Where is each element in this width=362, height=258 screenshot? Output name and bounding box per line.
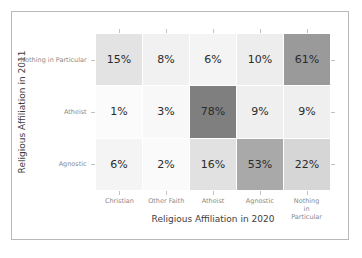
y-axis-tick: [331, 164, 335, 165]
y-axis-tick: [331, 60, 335, 61]
x-axis-tick: [307, 191, 308, 195]
heatmap-cell[interactable]: 6%: [96, 139, 142, 190]
x-axis-tick: [119, 29, 120, 33]
heatmap-cell[interactable]: 9%: [237, 86, 283, 137]
y-axis-tick: [91, 112, 95, 113]
cell-value: 61%: [295, 53, 320, 66]
x-axis-title: Religious Affiliation in 2020: [96, 214, 330, 224]
cell-value: 78%: [201, 105, 226, 118]
cell-value: 9%: [251, 105, 269, 118]
x-axis-tick: [119, 191, 120, 195]
heatmap-cell[interactable]: 8%: [143, 34, 189, 85]
cell-value: 53%: [248, 158, 273, 171]
x-axis-tick: [307, 29, 308, 33]
cell-value: 22%: [295, 158, 320, 171]
heatmap-cell[interactable]: 22%: [284, 139, 330, 190]
heatmap-cell[interactable]: 10%: [237, 34, 283, 85]
heatmap-figure: Religious Affiliation in 2011 15% 8% 6% …: [0, 0, 362, 258]
plot-area: 15% 8% 6% 10% 61% 1% 3% 78%: [96, 34, 330, 190]
y-axis-tick: [331, 112, 335, 113]
x-axis-tick-label: Agnostic: [246, 197, 274, 205]
x-axis-tick-label: Atheist: [202, 197, 225, 205]
x-axis-tick: [260, 191, 261, 195]
y-axis-tick-label: Agnostic: [59, 160, 87, 168]
cell-value: 3%: [157, 105, 175, 118]
cell-value: 1%: [110, 105, 128, 118]
x-axis-tick: [213, 29, 214, 33]
cell-value: 9%: [298, 105, 316, 118]
y-axis-tick: [91, 60, 95, 61]
x-axis-tick: [213, 191, 214, 195]
cell-value: 10%: [248, 53, 273, 66]
cell-value: 16%: [201, 158, 226, 171]
heatmap-cell[interactable]: 15%: [96, 34, 142, 85]
heatmap-cell[interactable]: 1%: [96, 86, 142, 137]
cell-value: 2%: [157, 158, 175, 171]
y-axis-tick-label: Atheist: [64, 108, 87, 116]
heatmap-cell[interactable]: 53%: [237, 139, 283, 190]
y-axis-tick-label: Nothing in Particular: [20, 56, 86, 64]
heatmap-cell[interactable]: 3%: [143, 86, 189, 137]
x-axis-tick: [166, 191, 167, 195]
y-axis-title: Religious Affiliation in 2011: [17, 51, 27, 174]
y-axis-tick: [91, 164, 95, 165]
heatmap-cell[interactable]: 61%: [284, 34, 330, 85]
x-axis-tick-label: Christian: [105, 197, 134, 205]
x-axis-tick: [166, 29, 167, 33]
heatmap-cell[interactable]: 6%: [190, 34, 236, 85]
cell-value: 6%: [110, 158, 128, 171]
cell-value: 8%: [157, 53, 175, 66]
cell-value: 15%: [107, 53, 132, 66]
heatmap-cell[interactable]: 78%: [190, 86, 236, 137]
heatmap-grid: 15% 8% 6% 10% 61% 1% 3% 78%: [96, 34, 330, 190]
heatmap-cell[interactable]: 2%: [143, 139, 189, 190]
cell-value: 6%: [204, 53, 222, 66]
x-axis-tick-label: Other Faith: [148, 197, 184, 205]
x-axis-tick: [260, 29, 261, 33]
heatmap-cell[interactable]: 9%: [284, 86, 330, 137]
heatmap-cell[interactable]: 16%: [190, 139, 236, 190]
